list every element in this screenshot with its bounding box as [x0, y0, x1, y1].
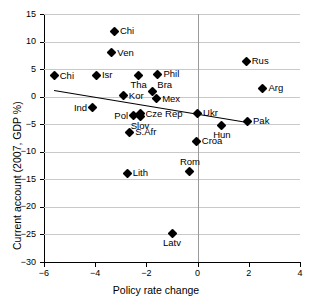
data-point-label: Chi [60, 71, 74, 81]
x-tick-mark [146, 263, 147, 267]
x-axis-title: Policy rate change [0, 285, 312, 296]
data-point-label: Ukr [203, 108, 218, 118]
y-axis-title: Current account (2007, GDP %) [12, 101, 23, 250]
x-tick-mark [44, 263, 45, 267]
gridline-y [44, 42, 300, 43]
x-tick-mark [198, 263, 199, 267]
x-tick-mark [300, 263, 301, 267]
data-point-label: Kor [129, 91, 144, 101]
data-point-marker [152, 94, 162, 104]
data-point-marker [153, 69, 163, 79]
y-tick-label: 0 [6, 92, 36, 101]
data-point-marker [118, 91, 128, 101]
y-tick-mark [40, 207, 44, 208]
data-point-label: Mex [162, 94, 180, 104]
gridline-y [44, 207, 300, 208]
y-tick-mark [40, 179, 44, 180]
data-point-label: Pol [114, 111, 128, 121]
y-tick-label: 5 [6, 65, 36, 74]
data-point-marker [49, 71, 59, 81]
x-axis-line [44, 262, 301, 263]
data-point-marker [191, 136, 201, 146]
y-tick-mark [40, 152, 44, 153]
plot-area: ChiVenRusChiIsrThaPhilArgBraKorMexIndUkr… [44, 14, 300, 262]
y-tick-mark [40, 42, 44, 43]
gridline-y [44, 152, 300, 153]
data-point-label: Latv [163, 238, 181, 248]
data-point-marker [107, 48, 117, 58]
data-point-label: Ven [117, 48, 133, 58]
data-point-marker [122, 168, 132, 178]
data-point-marker [193, 108, 203, 118]
y-tick-mark [40, 69, 44, 70]
y-tick-mark [40, 234, 44, 235]
data-point-label: Isr [102, 70, 113, 80]
data-point-label: Arg [268, 83, 283, 93]
data-point-marker [88, 103, 98, 113]
data-point-label: Phil [163, 69, 179, 79]
x-tick-label: 2 [237, 269, 261, 278]
data-point-marker [92, 70, 102, 80]
y-tick-label: 10 [6, 37, 36, 46]
data-point-marker [109, 26, 119, 36]
y-tick-mark [40, 14, 44, 15]
data-point-marker [258, 83, 268, 93]
x-tick-label: 4 [288, 269, 312, 278]
data-point-label: S.Afr [135, 127, 156, 137]
y-tick-mark [40, 97, 44, 98]
data-point-label: Chi [120, 26, 134, 36]
data-point-label: Tha [131, 80, 147, 90]
scatter-chart: ChiVenRusChiIsrThaPhilArgBraKorMexIndUkr… [0, 0, 312, 304]
data-point-marker [241, 56, 251, 66]
gridline-y [44, 14, 300, 15]
data-point-label: Bra [157, 80, 172, 90]
data-point-marker [185, 166, 195, 176]
data-point-label: Lith [133, 168, 148, 178]
data-point-label: Pak [253, 116, 269, 126]
x-tick-label: −2 [134, 269, 158, 278]
y-tick-label: 15 [6, 10, 36, 19]
y-tick-mark [40, 124, 44, 125]
data-point-label: Rus [252, 56, 269, 66]
data-point-label: Cze Rep [146, 109, 183, 119]
data-point-label: Rom [180, 157, 200, 167]
gridline-y [44, 179, 300, 180]
data-point-label: Croa [202, 136, 223, 146]
x-tick-label: −4 [83, 269, 107, 278]
data-point-label: Ind [74, 103, 87, 113]
x-tick-mark [249, 263, 250, 267]
x-tick-label: 0 [186, 269, 210, 278]
x-tick-label: −6 [32, 269, 56, 278]
y-tick-label: −30 [6, 258, 36, 267]
x-tick-mark [95, 263, 96, 267]
